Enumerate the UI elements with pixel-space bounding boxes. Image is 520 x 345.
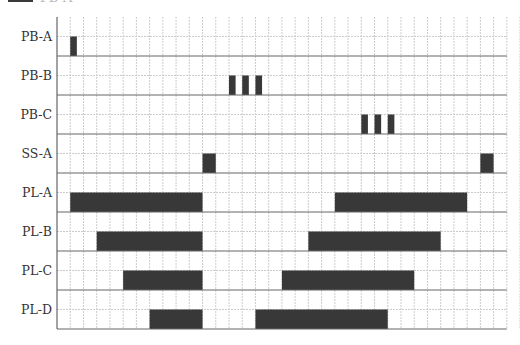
block-pb-a	[70, 37, 77, 57]
block-ss-a	[203, 154, 216, 174]
block-pb-b	[255, 76, 262, 96]
block-pl-a	[70, 193, 202, 213]
block-pb-b	[229, 76, 236, 96]
block-pl-b	[308, 232, 440, 252]
row-label: PL-C	[22, 263, 53, 278]
block-pl-c	[123, 271, 202, 291]
row-label: PL-A	[22, 185, 53, 200]
row-label: PB-B	[21, 68, 52, 83]
block-pb-b	[242, 76, 249, 96]
row-label: PB-A	[21, 29, 53, 44]
row-label: PL-D	[21, 302, 52, 317]
row-labels: PB-APB-BPB-CSS-APL-APL-BPL-CPL-D	[20, 29, 53, 317]
block-pb-c	[375, 115, 382, 135]
row-label: PL-B	[22, 224, 52, 239]
block-pl-a	[335, 193, 467, 213]
block-pl-d	[255, 310, 387, 330]
block-ss-a	[480, 154, 493, 174]
block-pl-d	[150, 310, 203, 330]
row-label: PB-C	[20, 107, 52, 122]
timeline-chart: PB-APB-BPB-CSS-APL-APL-BPL-CPL-D	[0, 0, 520, 345]
block-pb-c	[361, 115, 368, 135]
block-pb-c	[388, 115, 395, 135]
block-pl-b	[97, 232, 203, 252]
block-pl-c	[282, 271, 414, 291]
row-label: SS-A	[21, 146, 53, 161]
